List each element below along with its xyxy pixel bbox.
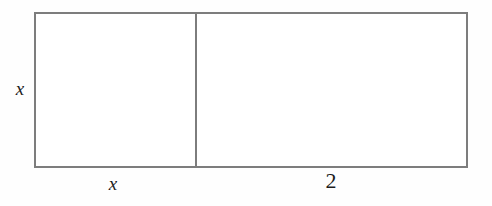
diagram-canvas: x x 2 [0, 0, 492, 206]
height-label: x [10, 79, 30, 98]
vertical-divider [195, 12, 197, 168]
right-width-label: 2 [313, 170, 349, 192]
outer-rectangle [34, 12, 468, 168]
left-width-label: x [95, 174, 131, 193]
